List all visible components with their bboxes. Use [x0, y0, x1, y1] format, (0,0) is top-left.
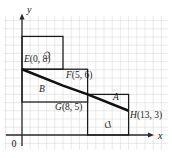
figure-root: E(0, 8) F(5, 6) G(8, 5) H(13, 3) A B C D…	[0, 0, 172, 158]
region-label-B: B	[39, 84, 45, 94]
origin-label: 0	[12, 138, 17, 149]
point-label-G: G(8, 5)	[55, 102, 82, 113]
x-axis-label: x	[157, 130, 163, 141]
coordinate-plot: E(0, 8) F(5, 6) G(8, 5) H(13, 3) A B C D…	[0, 0, 172, 158]
point-label-F: F(5, 6)	[65, 70, 92, 81]
y-axis-label: y	[26, 4, 32, 15]
point-label-H: H(13, 3)	[129, 110, 162, 121]
region-label-A: A	[112, 92, 119, 102]
